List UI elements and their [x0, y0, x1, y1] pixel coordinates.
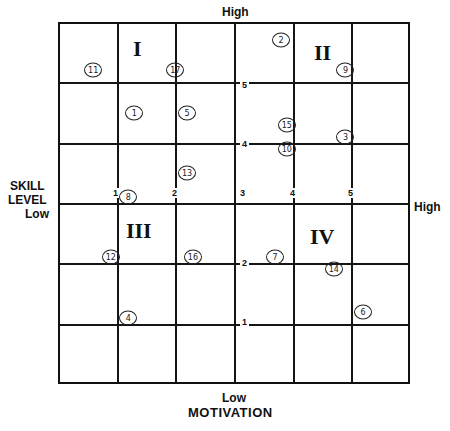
skill-motivation-grid: 1 2 3 4 5 5 4 3 2 1 I II III IV 12345678…	[58, 22, 410, 384]
y-tick-1: 1	[240, 317, 249, 327]
quadrant-label-ii: II	[314, 40, 331, 66]
y-tick-4: 4	[240, 139, 249, 149]
quadrant-label-iv: IV	[310, 224, 334, 250]
circled-point-2: 2	[272, 33, 290, 48]
y-axis-low-label: Low	[25, 207, 49, 221]
circled-point-13: 13	[178, 165, 196, 180]
circled-point-14: 14	[325, 262, 343, 277]
quadrant-label-i: I	[133, 36, 142, 62]
circled-point-17: 17	[166, 63, 184, 78]
circled-point-16: 16	[184, 250, 202, 265]
circled-point-6: 6	[354, 304, 372, 319]
circled-point-10: 10	[278, 141, 296, 156]
circled-point-9: 9	[336, 63, 354, 78]
y-tick-3: 3	[238, 188, 247, 198]
circled-point-15: 15	[278, 117, 296, 132]
circled-point-11: 11	[84, 63, 102, 78]
y-axis-title-line2: LEVEL	[8, 193, 47, 207]
circled-point-3: 3	[336, 129, 354, 144]
circled-point-1: 1	[125, 105, 143, 120]
y-tick-2: 2	[240, 258, 249, 268]
x-tick-5: 5	[346, 188, 355, 198]
circled-point-7: 7	[266, 250, 284, 265]
x-tick-4: 4	[288, 188, 297, 198]
circled-point-4: 4	[119, 310, 137, 325]
x-tick-2: 2	[170, 188, 179, 198]
y-tick-5: 5	[240, 80, 249, 90]
circled-point-12: 12	[102, 250, 120, 265]
x-axis-high-label: High	[414, 200, 441, 214]
x-axis-title: MOTIVATION	[188, 405, 273, 420]
quadrant-label-iii: III	[126, 218, 152, 244]
circled-point-8: 8	[119, 189, 137, 204]
circled-point-5: 5	[178, 105, 196, 120]
grid-border	[58, 22, 410, 384]
x-axis-low-label: Low	[222, 391, 246, 405]
y-axis-high-label: High	[222, 5, 249, 19]
y-axis-title-line1: SKILL	[10, 179, 45, 193]
